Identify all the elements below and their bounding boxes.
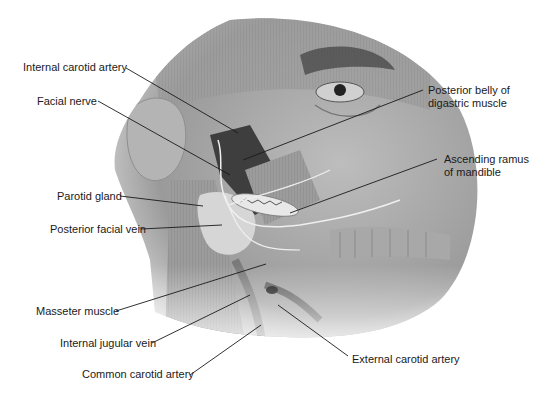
label-posterior-belly-line1: Posterior belly of — [428, 84, 510, 97]
head-illustration — [100, 10, 500, 350]
label-ascending-ramus-line1: Ascending ramus — [444, 153, 529, 166]
label-internal-jugular-vein: Internal jugular vein — [60, 337, 156, 350]
label-parotid-gland: Parotid gland — [57, 190, 122, 203]
label-masseter-muscle: Masseter muscle — [36, 305, 119, 318]
label-external-carotid-artery: External carotid artery — [352, 353, 460, 366]
label-facial-nerve: Facial nerve — [37, 95, 97, 108]
label-posterior-belly-line2: digastric muscle — [428, 97, 507, 110]
label-posterior-facial-vein: Posterior facial vein — [50, 223, 146, 236]
leader-common-carotid-artery — [190, 325, 261, 375]
label-internal-carotid-artery: Internal carotid artery — [23, 61, 127, 74]
label-ascending-ramus-line2: of mandible — [444, 166, 501, 179]
label-common-carotid-artery: Common carotid artery — [82, 368, 194, 381]
